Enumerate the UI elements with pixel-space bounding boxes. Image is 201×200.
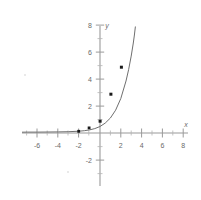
data-point (109, 93, 112, 96)
x-axis-label: x (183, 121, 188, 128)
data-point (120, 66, 123, 69)
y-axis-label: y (104, 22, 109, 30)
exponential-curve (22, 27, 135, 133)
y-axis-tick-labels: 2 4 6 8 -2 (86, 22, 92, 164)
x-tick-label: 8 (181, 142, 185, 149)
x-tick-label: 4 (140, 142, 144, 149)
y-tick-label: 2 (88, 103, 92, 110)
plot-canvas: -6 -4 -2 2 4 6 8 2 4 6 8 -2 x y (0, 0, 201, 200)
y-tick-label: -2 (86, 157, 92, 164)
curve-path-2-pow-x-plus-1 (22, 27, 135, 133)
x-tick-label: -2 (75, 142, 81, 149)
y-tick-label: 6 (88, 49, 92, 56)
y-tick-label: 8 (88, 22, 92, 29)
data-point (99, 120, 102, 123)
x-tick-label: 2 (119, 142, 123, 149)
x-tick-label: -6 (34, 142, 40, 149)
data-point (77, 130, 80, 133)
x-tick-label: -4 (55, 142, 61, 149)
x-tick-label: 6 (160, 142, 164, 149)
x-axis-tick-labels: -6 -4 -2 2 4 6 8 (34, 142, 185, 149)
y-tick-label: 4 (88, 76, 92, 83)
data-point (88, 127, 91, 130)
exponential-graph-figure: -6 -4 -2 2 4 6 8 2 4 6 8 -2 x y (0, 0, 201, 200)
